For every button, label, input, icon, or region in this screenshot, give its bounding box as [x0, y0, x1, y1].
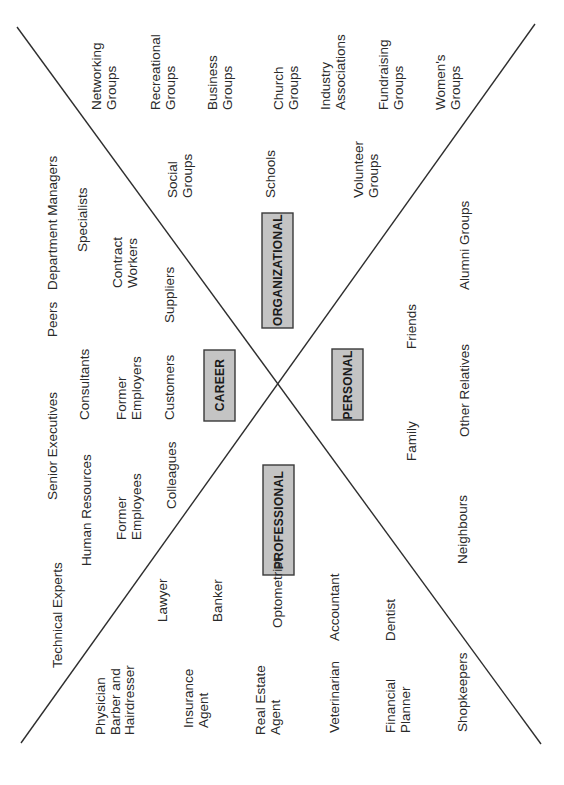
contact-label: Technical Experts — [50, 562, 65, 668]
contact-label: Alumni Groups — [457, 200, 472, 290]
contact-label: BusinessGroups — [205, 55, 235, 110]
contact-label: Accountant — [327, 573, 342, 641]
contact-label: Family — [404, 421, 419, 461]
contact-label: Optometrist — [270, 558, 285, 628]
category-label-organizational: ORGANIZATIONAL — [271, 214, 285, 326]
contact-label: Neighbours — [455, 495, 470, 564]
category-organizational: ORGANIZATIONAL — [262, 213, 293, 328]
contact-label: FormerEmployers — [114, 356, 144, 420]
category-label-professional: PROFESSIONAL — [272, 471, 286, 569]
contact-label: Human Resources — [79, 454, 94, 566]
contact-label: ChurchGroups — [271, 65, 301, 110]
contact-label: Banker — [210, 579, 225, 622]
contact-label: Veterinarian — [327, 661, 342, 733]
contact-label: IndustryAssociations — [318, 34, 348, 110]
contact-label: Other Relatives — [457, 344, 472, 437]
contact-label: Specialists — [75, 187, 90, 252]
contact-label: Suppliers — [162, 266, 177, 323]
contact-label: Lawyer — [155, 578, 170, 622]
contact-label: InsuranceAgent — [181, 669, 211, 728]
contact-label: Dentist — [383, 599, 398, 641]
contact-label: ContractWorkers — [110, 237, 140, 288]
contact-label: Women'sGroups — [433, 54, 463, 110]
contact-label: FundraisingGroups — [376, 39, 406, 110]
category-label-personal: PERSONAL — [341, 350, 355, 419]
contact-label: Schools — [263, 150, 278, 198]
contact-label: FinancialPlanner — [383, 679, 413, 733]
contact-label: NetworkingGroups — [89, 42, 119, 110]
contact-label: Shopkeepers — [455, 652, 470, 732]
contact-label: Friends — [404, 304, 419, 349]
contact-label: Senior Executives — [45, 392, 60, 500]
personal-contacts: Friends Other Relatives Family Neighbour… — [404, 304, 472, 564]
contact-label: Consultants — [77, 348, 92, 420]
category-career: CAREER — [204, 350, 235, 421]
network-diagram: CAREER ORGANIZATIONAL PERSONAL PROFESSIO… — [0, 0, 564, 785]
contact-label: VolunteerGroups — [351, 140, 381, 198]
contact-label: Department Managers — [45, 155, 60, 290]
contact-label: FormerEmployees — [114, 473, 144, 540]
professional-contacts: PhysicianBarber andHairdresser Lawyer In… — [93, 558, 470, 735]
contact-label: Peers — [45, 301, 60, 337]
category-label-career: CAREER — [213, 359, 227, 412]
contact-label: Colleagues — [164, 441, 179, 509]
category-personal: PERSONAL — [332, 349, 363, 420]
contact-label: Real EstateAgent — [253, 665, 283, 735]
contact-label: PhysicianBarber andHairdresser — [93, 665, 137, 735]
contact-label: RecreationalGroups — [148, 34, 178, 110]
contact-label: SocialGroups — [165, 153, 195, 198]
contact-label: Customers — [162, 354, 177, 420]
